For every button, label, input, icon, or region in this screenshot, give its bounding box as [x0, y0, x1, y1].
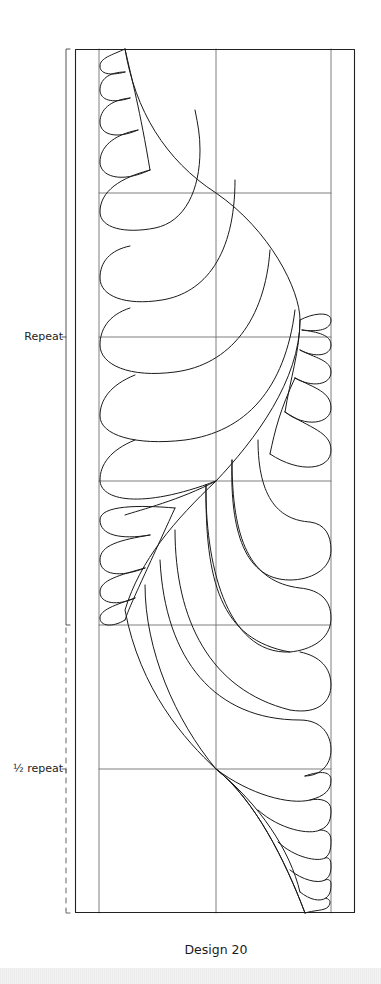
repeat-bracket [62, 49, 70, 625]
spine-lower [125, 481, 305, 913]
footer-band [0, 968, 381, 984]
half-repeat-label: ½ repeat [13, 762, 63, 775]
quilting-design-diagram: Repeat ½ repeat Design 20 [0, 0, 381, 984]
spine-upper [125, 49, 300, 481]
repeat-label: Repeat [24, 330, 63, 343]
figure-caption: Design 20 [0, 942, 381, 957]
design-drawing [0, 0, 381, 984]
half-repeat-bracket [62, 628, 70, 913]
